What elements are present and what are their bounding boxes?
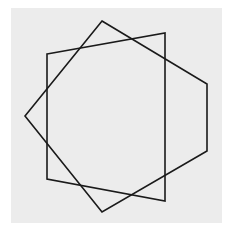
overlapping-polygons-figure <box>0 0 230 236</box>
pentagon-shape <box>25 21 207 212</box>
square-shape <box>47 33 165 201</box>
